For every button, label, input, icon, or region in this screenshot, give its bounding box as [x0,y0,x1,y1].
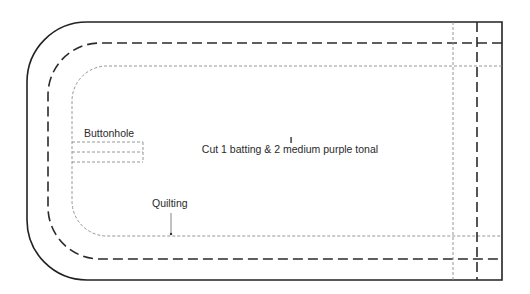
quilting-pointer-dot [170,233,172,235]
buttonhole-marking [72,142,143,162]
quilting-label: Quilting [152,197,188,209]
pattern-diagram: Buttonhole Quilting I Cut 1 batting & 2 … [0,0,530,294]
cut-instruction-label: Cut 1 batting & 2 medium purple tonal [202,143,378,155]
buttonhole-label: Buttonhole [84,127,134,139]
